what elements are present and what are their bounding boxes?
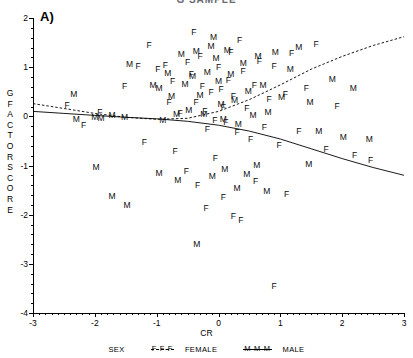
x-tick-minor	[120, 313, 121, 315]
x-tick-minor	[249, 313, 250, 315]
x-tick-minor	[398, 313, 399, 315]
y-tick-minor	[31, 185, 33, 186]
x-tick-minor	[181, 313, 182, 315]
data-point-m: M	[278, 92, 285, 101]
data-point-m: M	[182, 80, 189, 89]
data-point-m: M	[231, 95, 238, 104]
data-point-f: F	[352, 150, 357, 159]
data-point-f: F	[135, 61, 140, 70]
data-point-f: F	[173, 147, 178, 156]
data-point-m: M	[240, 59, 247, 68]
y-tick-minor	[31, 48, 33, 49]
y-tick-minor	[31, 254, 33, 255]
data-point-m: M	[109, 111, 116, 120]
data-point-m: M	[196, 90, 203, 99]
data-point-m: M	[217, 99, 224, 108]
data-point-m: M	[215, 77, 222, 86]
x-tick-major	[33, 313, 34, 317]
y-tick-minor	[31, 234, 33, 235]
data-point-f: F	[147, 40, 152, 49]
data-point-f: F	[213, 153, 218, 162]
data-point-m: M	[295, 42, 302, 51]
data-point-f: F	[262, 123, 267, 132]
data-point-f: F	[185, 58, 190, 67]
data-point-m: M	[159, 116, 166, 125]
x-tick-minor	[194, 313, 195, 315]
y-tick-minor	[31, 136, 33, 137]
y-tick-minor	[31, 87, 33, 88]
y-axis-title-letter: C	[4, 120, 16, 131]
y-tick-label: -3	[8, 260, 28, 268]
x-tick-minor	[299, 313, 300, 315]
data-point-m: M	[70, 89, 77, 98]
y-tick-label: -1	[8, 162, 28, 170]
y-tick-minor	[31, 107, 33, 108]
x-tick-minor	[268, 313, 269, 315]
x-tick-minor	[206, 313, 207, 315]
y-tick-major	[29, 116, 33, 117]
y-tick-minor	[31, 303, 33, 304]
data-point-m: M	[121, 113, 128, 122]
data-point-f: F	[248, 135, 253, 144]
x-tick-minor	[45, 313, 46, 315]
data-point-m: M	[126, 60, 133, 69]
data-point-m: M	[193, 240, 200, 249]
male-fit-curve	[33, 111, 404, 175]
data-point-m: M	[263, 187, 270, 196]
y-axis-title-letter: O	[4, 141, 16, 152]
data-point-m: M	[272, 48, 279, 57]
data-point-f: F	[238, 215, 243, 224]
x-tick-label: 2	[330, 319, 354, 327]
x-tick-label: -3	[21, 319, 45, 327]
x-tick-minor	[336, 313, 337, 315]
x-axis-title: CR	[0, 328, 413, 338]
legend-female-marker: F-F-F	[152, 344, 173, 353]
data-point-m: M	[185, 106, 192, 115]
x-tick-minor	[330, 313, 331, 315]
y-tick-label: 2	[8, 14, 28, 22]
data-point-f: F	[335, 101, 340, 110]
data-point-f: F	[241, 67, 246, 76]
x-tick-label: 1	[268, 319, 292, 327]
data-point-f: F	[142, 138, 147, 147]
x-tick-minor	[58, 313, 59, 315]
x-tick-minor	[243, 313, 244, 315]
x-tick-minor	[293, 313, 294, 315]
data-point-m: M	[189, 72, 196, 81]
data-point-m: M	[174, 176, 181, 185]
x-tick-minor	[101, 313, 102, 315]
x-tick-minor	[52, 313, 53, 315]
x-tick-minor	[348, 313, 349, 315]
y-tick-minor	[31, 77, 33, 78]
x-tick-minor	[89, 313, 90, 315]
x-tick-minor	[379, 313, 380, 315]
data-point-f: F	[208, 88, 213, 97]
panel-label: A)	[40, 9, 54, 24]
data-point-m: M	[168, 91, 175, 100]
data-point-f: F	[212, 116, 217, 125]
x-tick-minor	[274, 313, 275, 315]
data-point-m: M	[264, 108, 271, 117]
y-tick-major	[29, 166, 33, 167]
x-tick-major	[404, 313, 405, 317]
data-point-m: M	[178, 50, 185, 59]
data-point-m: M	[255, 52, 262, 61]
x-tick-minor	[287, 313, 288, 315]
data-point-m: M	[109, 192, 116, 201]
x-tick-minor	[311, 313, 312, 315]
x-tick-minor	[212, 313, 213, 315]
y-tick-major	[29, 67, 33, 68]
data-point-f: F	[184, 167, 189, 176]
y-tick-minor	[31, 195, 33, 196]
y-tick-minor	[31, 244, 33, 245]
x-tick-minor	[188, 313, 189, 315]
x-tick-minor	[163, 313, 164, 315]
data-point-f: F	[218, 85, 223, 94]
data-point-m: M	[233, 184, 240, 193]
legend-male-marker: M-M-M	[244, 344, 270, 353]
y-tick-minor	[31, 175, 33, 176]
y-tick-major	[29, 264, 33, 265]
y-axis-title-letter: R	[4, 194, 16, 205]
data-point-m: M	[287, 65, 294, 74]
data-point-m: M	[164, 69, 171, 78]
